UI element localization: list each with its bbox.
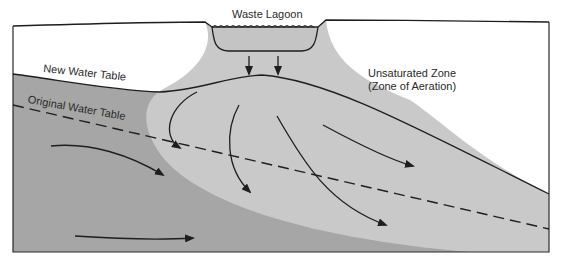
unsaturated-zone-title: Unsaturated Zone — [368, 67, 456, 80]
lagoon-water — [212, 27, 318, 51]
groundwater-diagram — [0, 0, 561, 263]
zone-of-aeration-subtitle: (Zone of Aeration) — [368, 80, 456, 93]
unsaturated-zone-label: Unsaturated Zone (Zone of Aeration) — [368, 67, 456, 93]
waste-lagoon-label: Waste Lagoon — [232, 8, 303, 20]
